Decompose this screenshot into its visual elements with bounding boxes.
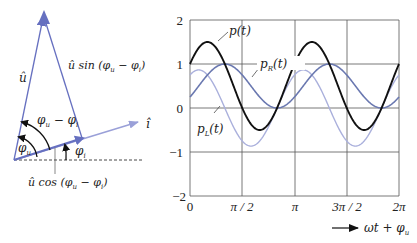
svg-text:0: 0 bbox=[177, 101, 184, 116]
phi-i-label: φi bbox=[75, 144, 86, 160]
u-cos-label: û cos (φu − φi) bbox=[28, 176, 107, 191]
phasor-diagram: û û sin (φu − φi) î φu − φi φu φi û cos … bbox=[14, 10, 151, 191]
p-curve-label: p(t) bbox=[229, 24, 251, 38]
pL-label-leader bbox=[214, 106, 220, 113]
x-axis-label: ωt + φu bbox=[364, 221, 410, 237]
p-label-leader bbox=[218, 32, 228, 41]
svg-text:π: π bbox=[292, 199, 299, 214]
u-sin-label: û sin (φu − φi) bbox=[68, 59, 145, 74]
p-curve bbox=[190, 42, 399, 130]
svg-text:−1: −1 bbox=[169, 145, 183, 160]
u-phasor-arrow bbox=[14, 18, 43, 160]
u-tip-icon bbox=[38, 10, 50, 24]
svg-text:π / 2: π / 2 bbox=[230, 199, 254, 214]
pL-curve-label: pL(t) bbox=[197, 122, 224, 138]
svg-text:2: 2 bbox=[177, 13, 184, 28]
u-label: û bbox=[19, 71, 27, 85]
svg-text:3π / 2: 3π / 2 bbox=[331, 199, 362, 214]
pR-curve-label: pR(t) bbox=[260, 57, 287, 73]
svg-text:1: 1 bbox=[177, 57, 184, 72]
y-tick-labels: 2 1 0 −1 −2 bbox=[169, 13, 186, 204]
angle-diff-label: φu − φi bbox=[37, 113, 78, 129]
grid bbox=[190, 20, 399, 196]
x-tick-labels: 0 π / 2 π 3π / 2 2π bbox=[187, 199, 406, 214]
svg-text:2π: 2π bbox=[392, 199, 406, 214]
angle-arc-phi-i bbox=[65, 145, 66, 160]
svg-text:−2: −2 bbox=[172, 189, 186, 204]
svg-text:0: 0 bbox=[187, 199, 194, 214]
figure: û û sin (φu − φi) î φu − φi φu φi û cos … bbox=[0, 0, 417, 243]
power-chart: 2 1 0 −1 −2 0 π / 2 π 3π / 2 2π p(t) pR(… bbox=[169, 13, 410, 237]
i-label: î bbox=[146, 117, 151, 131]
